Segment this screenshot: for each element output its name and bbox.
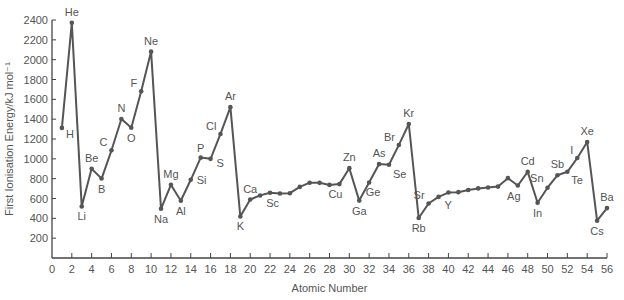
element-label: K	[237, 220, 245, 232]
y-tick-label: 1400	[24, 113, 48, 125]
element-label: Cl	[206, 120, 216, 132]
data-point	[188, 177, 193, 182]
chart-canvas: 2004006008001000120014001600180020002200…	[0, 0, 624, 300]
data-point	[585, 140, 590, 145]
data-point	[426, 201, 431, 206]
x-tick-label: 28	[323, 263, 335, 275]
element-label: Kr	[403, 107, 414, 119]
element-label: Ga	[352, 205, 368, 217]
data-point	[575, 156, 580, 161]
x-tick-label: 54	[581, 263, 593, 275]
data-point	[89, 167, 94, 172]
x-tick-label: 44	[482, 263, 494, 275]
element-label: Se	[393, 168, 406, 180]
element-label: Ag	[507, 190, 520, 202]
x-tick-label: 26	[304, 263, 316, 275]
data-point	[218, 132, 223, 137]
x-tick-label: 32	[363, 263, 375, 275]
data-point	[129, 125, 134, 130]
element-label: Br	[384, 131, 395, 143]
data-point	[357, 198, 362, 203]
element-label: P	[197, 142, 204, 154]
data-point	[198, 155, 203, 160]
element-label: H	[66, 128, 74, 140]
x-tick-label: 52	[561, 263, 573, 275]
element-label: Sr	[414, 189, 425, 201]
x-tick-label: 14	[185, 263, 197, 275]
x-tick-label: 4	[89, 263, 95, 275]
ionisation-energy-chart: 2004006008001000120014001600180020002200…	[0, 0, 624, 300]
x-tick-label: 30	[343, 263, 355, 275]
data-point	[208, 157, 213, 162]
data-point	[288, 191, 293, 196]
element-label: Li	[77, 210, 86, 222]
data-point	[466, 188, 471, 193]
y-tick-label: 1600	[24, 93, 48, 105]
data-point	[476, 186, 481, 191]
y-tick-label: 200	[30, 232, 48, 244]
data-point	[436, 195, 441, 200]
element-label: B	[98, 183, 105, 195]
x-tick-label: 20	[244, 263, 256, 275]
y-tick-label: 1000	[24, 153, 48, 165]
data-point	[387, 162, 392, 167]
element-label: Be	[85, 152, 98, 164]
data-point	[317, 181, 322, 186]
x-tick-label: 2	[69, 263, 75, 275]
data-point	[238, 214, 243, 219]
data-point	[367, 180, 372, 185]
element-label: Xe	[580, 125, 593, 137]
element-label: Ca	[243, 183, 258, 195]
data-point	[307, 180, 312, 185]
y-tick-label: 600	[30, 193, 48, 205]
x-tick-label: 22	[264, 263, 276, 275]
y-tick-label: 800	[30, 173, 48, 185]
x-tick-label: 0	[49, 263, 55, 275]
data-point	[119, 117, 124, 122]
data-point	[99, 176, 104, 181]
data-point	[179, 198, 184, 203]
data-point	[416, 216, 421, 221]
element-label: Sb	[551, 158, 564, 170]
data-point	[268, 190, 273, 195]
element-label: Zn	[343, 151, 356, 163]
element-label: As	[373, 147, 386, 159]
element-label: Al	[176, 205, 186, 217]
x-tick-label: 24	[284, 263, 296, 275]
data-point	[337, 182, 342, 187]
data-point	[446, 190, 451, 195]
x-axis-label: Atomic Number	[292, 282, 368, 294]
y-tick-label: 2400	[24, 14, 48, 26]
x-tick-label: 18	[224, 263, 236, 275]
x-tick-label: 50	[541, 263, 553, 275]
x-tick-label: 56	[601, 263, 613, 275]
data-point	[377, 162, 382, 167]
data-point	[595, 218, 600, 223]
element-label: He	[65, 6, 79, 18]
data-point	[149, 49, 154, 54]
data-point	[159, 207, 164, 212]
y-axis-label: First Ionisation Energy/kJ mol⁻¹	[3, 62, 15, 216]
element-label: Sc	[266, 197, 279, 209]
data-point	[60, 126, 65, 131]
x-tick-label: 12	[165, 263, 177, 275]
x-tick-label: 36	[403, 263, 415, 275]
element-label: In	[533, 207, 542, 219]
element-label: Ar	[225, 90, 236, 102]
element-label: Te	[571, 174, 583, 186]
data-point	[486, 185, 491, 190]
data-point	[565, 170, 570, 175]
y-tick-label: 400	[30, 212, 48, 224]
element-label: Sn	[530, 172, 543, 184]
y-tick-label: 1800	[24, 74, 48, 86]
data-point	[139, 89, 144, 94]
data-point	[248, 197, 253, 202]
data-point	[605, 206, 610, 211]
y-tick-label: 1200	[24, 133, 48, 145]
y-tick-label: 2200	[24, 34, 48, 46]
x-tick-label: 38	[422, 263, 434, 275]
data-point	[278, 191, 283, 196]
data-point	[228, 105, 233, 110]
x-tick-label: 34	[383, 263, 395, 275]
x-tick-label: 40	[442, 263, 454, 275]
